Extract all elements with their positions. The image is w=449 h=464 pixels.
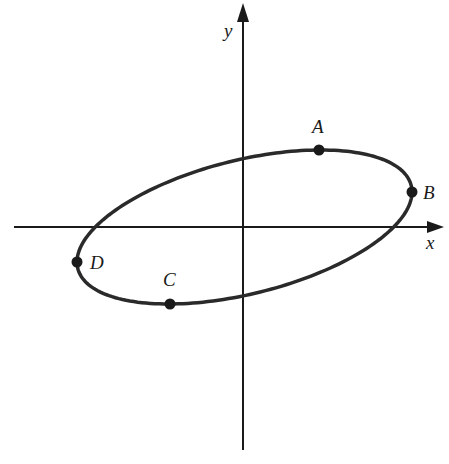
point-d-label: D bbox=[89, 252, 104, 273]
point-b bbox=[407, 187, 418, 198]
points-layer: A B C D bbox=[72, 116, 436, 310]
point-d bbox=[72, 257, 83, 268]
y-axis-arrow-icon bbox=[237, 3, 249, 22]
point-c-label: C bbox=[163, 269, 176, 290]
point-c bbox=[165, 299, 176, 310]
point-b-label: B bbox=[423, 182, 435, 203]
point-a-label: A bbox=[310, 116, 324, 137]
ellipse-diagram: x y A B C D bbox=[0, 0, 449, 464]
point-a bbox=[314, 145, 325, 156]
x-axis-label: x bbox=[425, 232, 435, 253]
y-axis-label: y bbox=[222, 20, 233, 41]
